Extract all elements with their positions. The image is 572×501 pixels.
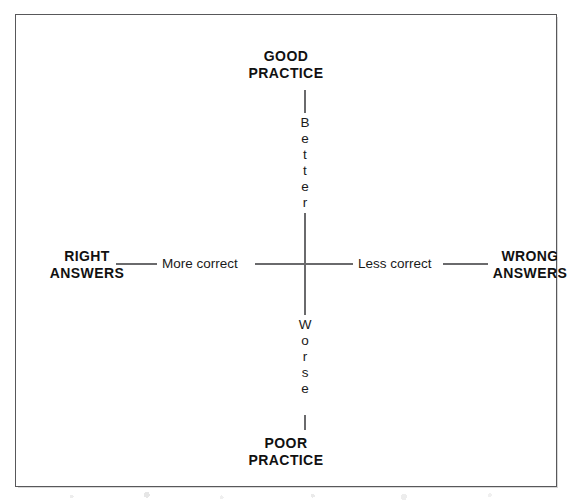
stacked-letter: W <box>292 317 318 333</box>
pole-label-good-practice: GOOD PRACTICE <box>16 48 556 82</box>
pole-label-right-answers-line1: RIGHT <box>44 248 130 265</box>
axis-descriptor-better: Better <box>292 115 318 211</box>
stacked-letter: s <box>292 365 318 381</box>
pole-label-good-practice-line2: PRACTICE <box>16 65 556 82</box>
pole-label-poor-practice-line2: PRACTICE <box>16 452 556 469</box>
axis-descriptor-worse: Worse <box>292 317 318 397</box>
pole-label-poor-practice: POOR PRACTICE <box>16 435 556 469</box>
pole-label-right-answers: RIGHT ANSWERS <box>44 248 130 282</box>
stacked-letter: e <box>292 381 318 397</box>
diagram-canvas: GOOD PRACTICE POOR PRACTICE RIGHT ANSWER… <box>0 0 572 501</box>
scan-artifact <box>18 492 554 501</box>
axis-descriptor-less-correct: Less correct <box>358 257 432 271</box>
stacked-letter: B <box>292 115 318 131</box>
pole-label-poor-practice-line1: POOR <box>16 435 556 452</box>
stacked-letter: t <box>292 163 318 179</box>
stacked-letter: o <box>292 333 318 349</box>
pole-label-wrong-answers-line1: WRONG <box>484 248 572 265</box>
axis-descriptor-more-correct: More correct <box>162 257 238 271</box>
diagram-frame: GOOD PRACTICE POOR PRACTICE RIGHT ANSWER… <box>15 14 557 487</box>
pole-label-wrong-answers-line2: ANSWERS <box>484 265 572 282</box>
pole-label-wrong-answers: WRONG ANSWERS <box>484 248 572 282</box>
stacked-letter: r <box>292 195 318 211</box>
stacked-letter: e <box>292 131 318 147</box>
pole-label-right-answers-line2: ANSWERS <box>44 265 130 282</box>
stacked-letter: e <box>292 179 318 195</box>
pole-label-good-practice-line1: GOOD <box>16 48 556 65</box>
stacked-letter: t <box>292 147 318 163</box>
stacked-letter: r <box>292 349 318 365</box>
